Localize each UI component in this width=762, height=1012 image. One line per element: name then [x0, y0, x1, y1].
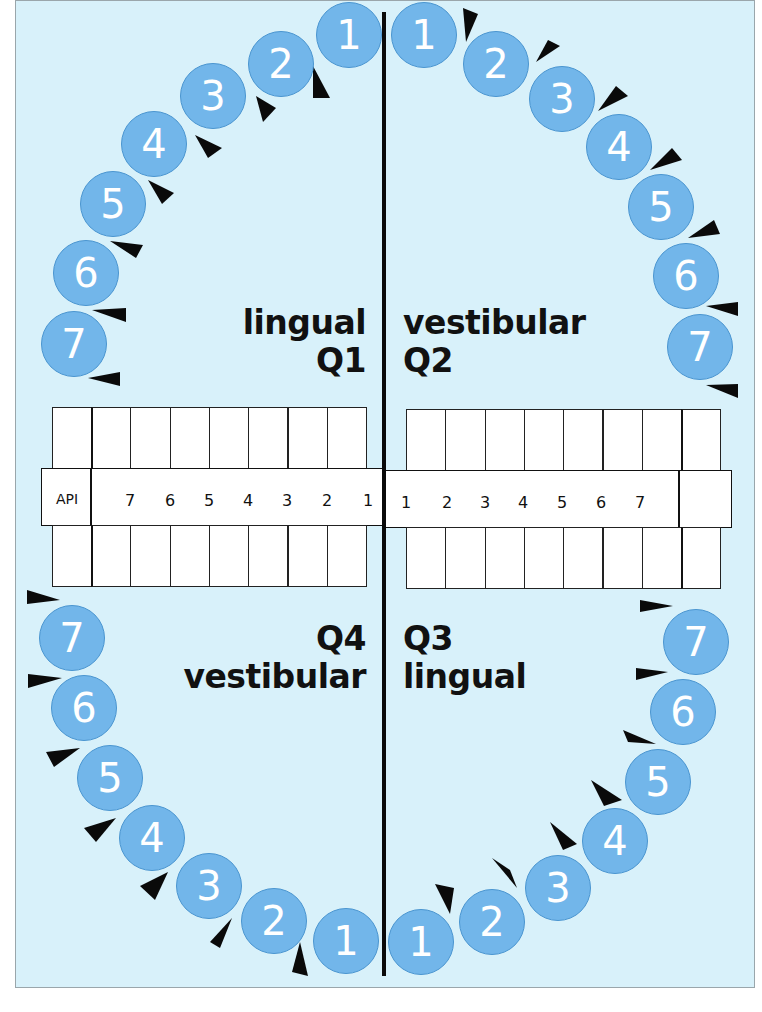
tooth-q3-2[interactable]: 2 — [459, 889, 525, 955]
tooth-number-label: 3 — [277, 491, 297, 510]
tooth-q1-3[interactable]: 3 — [180, 63, 246, 129]
upper-api-cell[interactable] — [52, 407, 92, 471]
tooth-q1-7[interactable]: 7 — [41, 311, 107, 377]
lower-left-cell[interactable] — [327, 525, 367, 587]
tooth-q2-7[interactable]: 7 — [667, 314, 733, 380]
upper-right-cell[interactable] — [524, 409, 564, 473]
lower-left-cell[interactable] — [248, 525, 288, 587]
number-row-left: API 7654321 — [41, 468, 385, 526]
upper-left-cell[interactable] — [248, 407, 288, 471]
lower-left-cell[interactable] — [209, 525, 249, 587]
tooth-number-label: 2 — [317, 491, 337, 510]
upper-right-cell[interactable] — [445, 409, 485, 473]
tooth-q1-1[interactable]: 1 — [316, 2, 382, 68]
lower-left-cell[interactable] — [288, 525, 328, 587]
q1-label: lingual Q1 — [200, 304, 366, 380]
lower-left-cell[interactable] — [91, 525, 131, 587]
lower-right-cell[interactable] — [406, 527, 446, 589]
upper-left-cell[interactable] — [327, 407, 367, 471]
tooth-q3-3[interactable]: 3 — [525, 855, 591, 921]
lower-right-cell[interactable] — [485, 527, 525, 589]
tooth-q2-3[interactable]: 3 — [529, 66, 595, 132]
tooth-q4-4[interactable]: 4 — [119, 805, 185, 871]
upper-left-cell[interactable] — [288, 407, 328, 471]
q4-surface: vestibular — [150, 658, 366, 696]
upper-right-cell[interactable] — [563, 409, 603, 473]
upper-left-cell[interactable] — [91, 407, 131, 471]
api-label: API — [56, 491, 78, 507]
tooth-number-label: 7 — [630, 493, 650, 512]
tooth-number-label: 6 — [591, 493, 611, 512]
lower-right-cell[interactable] — [445, 527, 485, 589]
tooth-q2-6[interactable]: 6 — [653, 243, 719, 309]
tooth-number-label: 4 — [238, 491, 258, 510]
q3-name: Q3 — [403, 620, 603, 658]
q1-name: Q1 — [200, 342, 366, 380]
tooth-number-label: 2 — [437, 493, 457, 512]
api-divider — [90, 468, 92, 526]
tooth-q1-4[interactable]: 4 — [121, 111, 187, 177]
upper-right-cell[interactable] — [485, 409, 525, 473]
lower-api-cell[interactable] — [52, 525, 92, 587]
tooth-q4-7[interactable]: 7 — [39, 605, 105, 671]
upper-right-extra-cell[interactable] — [681, 409, 721, 473]
q2-surface: vestibular — [403, 304, 603, 342]
tooth-q3-4[interactable]: 4 — [582, 808, 648, 874]
tooth-q4-5[interactable]: 5 — [77, 745, 143, 811]
lower-left-cell[interactable] — [130, 525, 170, 587]
upper-right-cell[interactable] — [642, 409, 682, 473]
upper-left-cell[interactable] — [209, 407, 249, 471]
q1-surface: lingual — [200, 304, 366, 342]
dental-chart: 1234567123456776543217654321 API 7654321… — [0, 0, 762, 1012]
lower-right-cell[interactable] — [524, 527, 564, 589]
tooth-q1-2[interactable]: 2 — [248, 31, 314, 97]
tooth-number-label: 7 — [120, 491, 140, 510]
tooth-q4-6[interactable]: 6 — [51, 675, 117, 741]
tooth-q3-7[interactable]: 7 — [663, 609, 729, 675]
tooth-q1-5[interactable]: 5 — [80, 171, 146, 237]
lower-left-cell[interactable] — [170, 525, 210, 587]
tooth-number-label: 3 — [475, 493, 495, 512]
upper-left-cell[interactable] — [170, 407, 210, 471]
tooth-q2-4[interactable]: 4 — [586, 114, 652, 180]
upper-right-cell[interactable] — [406, 409, 446, 473]
tooth-number-label: 5 — [199, 491, 219, 510]
tooth-q2-5[interactable]: 5 — [628, 174, 694, 240]
tooth-number-label: 6 — [160, 491, 180, 510]
tooth-q3-6[interactable]: 6 — [650, 679, 716, 745]
q2-name: Q2 — [403, 342, 603, 380]
tooth-q4-3[interactable]: 3 — [176, 853, 242, 919]
q2-label: vestibular Q2 — [403, 304, 603, 380]
tooth-q1-6[interactable]: 6 — [53, 240, 119, 306]
tooth-number-label: 1 — [358, 491, 378, 510]
tooth-q3-1[interactable]: 1 — [388, 909, 454, 975]
q4-name: Q4 — [150, 620, 366, 658]
lower-right-cell[interactable] — [603, 527, 643, 589]
q3-surface: lingual — [403, 658, 603, 696]
tooth-q2-2[interactable]: 2 — [463, 31, 529, 97]
tooth-q3-5[interactable]: 5 — [625, 749, 691, 815]
tooth-q4-2[interactable]: 2 — [241, 888, 307, 954]
right-divider — [678, 470, 680, 528]
tooth-number-label: 4 — [513, 493, 533, 512]
lower-right-cell[interactable] — [642, 527, 682, 589]
tooth-number-label: 1 — [396, 493, 416, 512]
upper-left-cell[interactable] — [130, 407, 170, 471]
tooth-q2-1[interactable]: 1 — [391, 2, 457, 68]
tooth-number-label: 5 — [552, 493, 572, 512]
tooth-q4-1[interactable]: 1 — [313, 908, 379, 974]
midline-divider — [382, 12, 386, 976]
q4-label: Q4 vestibular — [150, 620, 366, 696]
lower-right-extra-cell[interactable] — [681, 527, 721, 589]
number-row-right: 1234567 — [385, 470, 732, 528]
q3-label: Q3 lingual — [403, 620, 603, 696]
upper-right-cell[interactable] — [603, 409, 643, 473]
lower-right-cell[interactable] — [563, 527, 603, 589]
